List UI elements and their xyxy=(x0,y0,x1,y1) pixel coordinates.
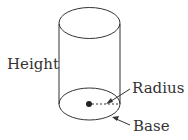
base-label: Base xyxy=(133,117,170,135)
height-label: Height xyxy=(7,55,59,73)
cylinder-diagram: Height Radius Base xyxy=(0,0,188,140)
cylinder-top xyxy=(59,8,120,39)
radius-label: Radius xyxy=(132,79,184,97)
base-center-dot xyxy=(86,101,92,107)
radius-arrowhead-icon xyxy=(106,98,113,104)
